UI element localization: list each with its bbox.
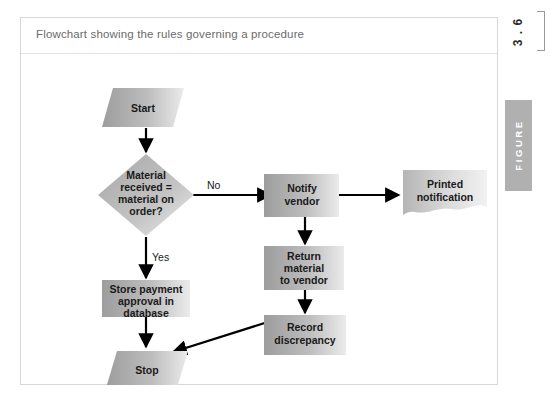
start-label: Start	[131, 102, 155, 114]
edge-record-to-stop	[173, 321, 271, 352]
store-label-line-1: Store payment	[110, 283, 183, 295]
figure-card: Flowchart showing the rules governing a …	[20, 17, 498, 385]
decision-label-line-1: Material	[126, 169, 166, 181]
return-label-line-3: to vendor	[280, 274, 328, 286]
record-label-line-1: Record	[287, 321, 323, 333]
node-stop[interactable]: Stop	[106, 351, 188, 385]
return-label-line-2: material	[284, 262, 324, 274]
figure-number: 3 . 6	[494, 19, 542, 45]
store-label-line-2: approval in	[118, 295, 174, 307]
edge-label-no: No	[207, 179, 221, 191]
store-label-line-3: database	[123, 307, 169, 319]
figure-caption-text: Flowchart showing the rules governing a …	[36, 28, 304, 40]
node-start[interactable]: Start	[102, 88, 184, 127]
node-return-material[interactable]: Return material to vendor	[264, 246, 344, 290]
node-record-discrepancy[interactable]: Record discrepancy	[264, 315, 346, 355]
figure-caption-bar: Flowchart showing the rules governing a …	[21, 18, 497, 54]
node-decision[interactable]: Material received = material on order?	[98, 154, 194, 236]
decision-label-line-4: order?	[129, 205, 162, 217]
node-store-payment[interactable]: Store payment approval in database	[102, 280, 190, 319]
decision-label-line-3: material on	[118, 193, 174, 205]
return-label-line-1: Return	[287, 250, 321, 262]
decision-label-line-2: received =	[120, 181, 172, 193]
flowchart-svg: Start Material received = material on or…	[21, 55, 497, 385]
printed-label-line-2: notification	[417, 191, 474, 203]
notify-label-line-2: vendor	[284, 195, 319, 207]
printed-label-line-1: Printed	[427, 178, 463, 190]
figure-number-bracket	[537, 11, 545, 51]
node-printed-notification[interactable]: Printed notification	[403, 170, 487, 215]
notify-label-line-1: Notify	[287, 182, 317, 194]
figure-tab-label: FIGURE	[512, 100, 526, 191]
node-notify-vendor[interactable]: Notify vendor	[264, 174, 339, 217]
figure-tab: FIGURE	[505, 100, 532, 191]
record-label-line-2: discrepancy	[274, 334, 335, 346]
edge-label-yes: Yes	[152, 251, 169, 263]
stop-label: Stop	[135, 364, 158, 376]
flowchart-diagram: Start Material received = material on or…	[21, 55, 497, 385]
